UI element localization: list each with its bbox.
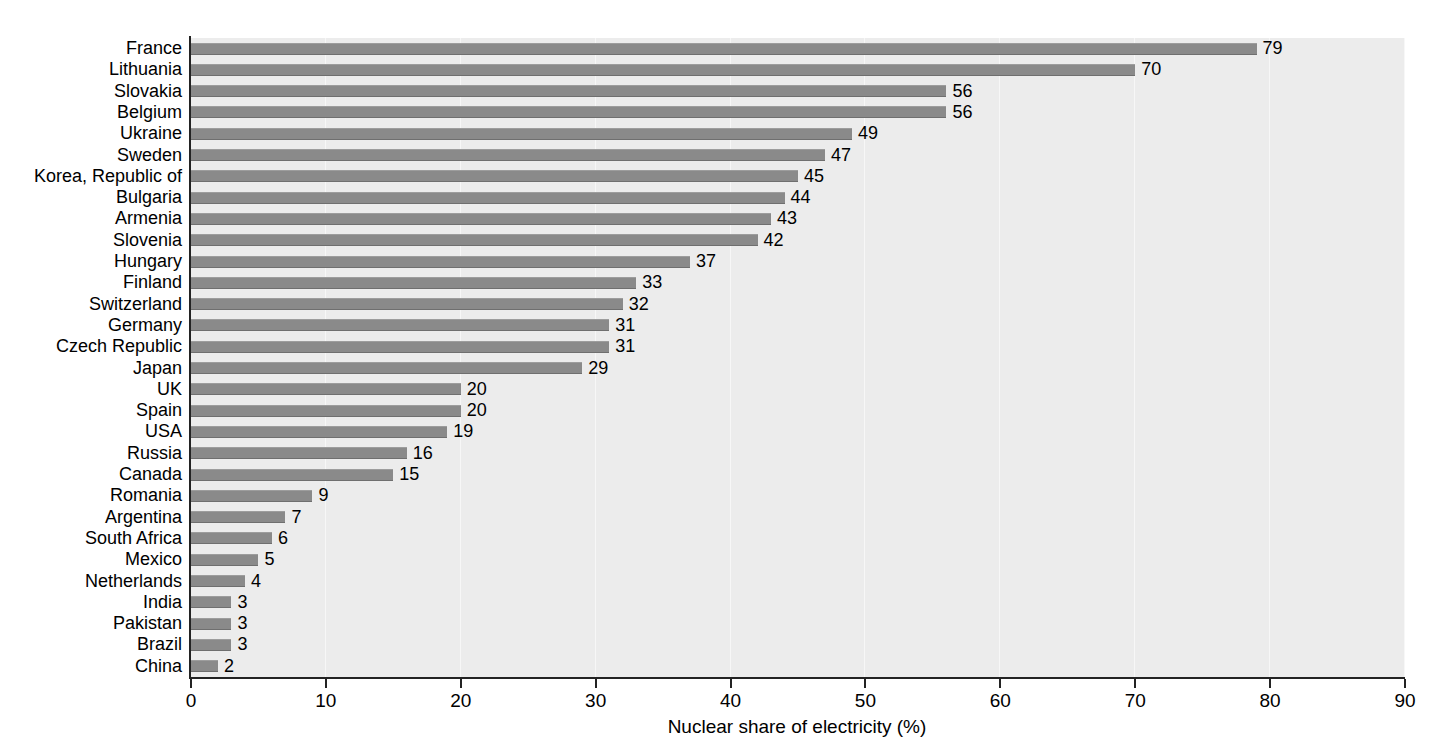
bar-row: Mexico5 (0, 549, 1455, 570)
bar (191, 319, 609, 331)
x-tick-mark (190, 679, 192, 688)
bar-row: Czech Republic31 (0, 336, 1455, 357)
bar-value-label: 3 (231, 613, 247, 634)
category-label: Ukraine (0, 123, 182, 144)
category-label: UK (0, 379, 182, 400)
bar (191, 618, 231, 630)
category-label: Netherlands (0, 571, 182, 592)
bar-value-label: 47 (825, 145, 851, 166)
category-label: USA (0, 421, 182, 442)
bar-row: Armenia43 (0, 208, 1455, 229)
x-tick-mark (864, 679, 866, 688)
x-tick-mark (1134, 679, 1136, 688)
bar-value-label: 2 (218, 656, 234, 677)
x-tick-label: 30 (556, 690, 636, 712)
bar-value-label: 3 (231, 592, 247, 613)
category-label: India (0, 592, 182, 613)
bar-row: Hungary37 (0, 251, 1455, 272)
bar-row: China2 (0, 656, 1455, 677)
bar (191, 64, 1135, 76)
bar-value-label: 15 (393, 464, 419, 485)
category-label: Germany (0, 315, 182, 336)
bar (191, 554, 258, 566)
bar-value-label: 31 (609, 336, 635, 357)
category-label: Japan (0, 358, 182, 379)
bar (191, 639, 231, 651)
bar-value-label: 31 (609, 315, 635, 336)
bar-row: France79 (0, 38, 1455, 59)
bar-row: Brazil3 (0, 634, 1455, 655)
bar (191, 362, 582, 374)
x-tick-mark (1404, 679, 1406, 688)
bar (191, 43, 1257, 55)
bar-row: Pakistan3 (0, 613, 1455, 634)
category-label: Romania (0, 485, 182, 506)
x-tick-label: 50 (825, 690, 905, 712)
bar-value-label: 6 (272, 528, 288, 549)
bar-row: USA19 (0, 421, 1455, 442)
bar-row: Slovakia56 (0, 81, 1455, 102)
bar (191, 532, 272, 544)
x-tick-label: 60 (960, 690, 1040, 712)
bar-value-label: 42 (758, 230, 784, 251)
bar-row: Canada15 (0, 464, 1455, 485)
x-tick-mark (595, 679, 597, 688)
category-label: Finland (0, 272, 182, 293)
bar (191, 490, 312, 502)
bar (191, 447, 407, 459)
bar-row: Russia16 (0, 443, 1455, 464)
bar (191, 511, 285, 523)
bar-row: UK20 (0, 379, 1455, 400)
bar-row: Switzerland32 (0, 294, 1455, 315)
bar-row: Belgium56 (0, 102, 1455, 123)
bar-row: Korea, Republic of45 (0, 166, 1455, 187)
bar-row: Japan29 (0, 358, 1455, 379)
category-label: Brazil (0, 634, 182, 655)
bar (191, 405, 461, 417)
bar-value-label: 7 (285, 507, 301, 528)
bar (191, 213, 771, 225)
category-label: Canada (0, 464, 182, 485)
bar (191, 383, 461, 395)
x-tick-label: 0 (151, 690, 231, 712)
x-tick-mark (999, 679, 1001, 688)
bar-value-label: 70 (1135, 59, 1161, 80)
bar (191, 596, 231, 608)
bar (191, 85, 946, 97)
bar-value-label: 79 (1257, 38, 1283, 59)
bar-value-label: 9 (312, 485, 328, 506)
bar (191, 128, 852, 140)
bar-value-label: 37 (690, 251, 716, 272)
category-label: Mexico (0, 549, 182, 570)
x-tick-mark (730, 679, 732, 688)
bar (191, 192, 785, 204)
bar-value-label: 49 (852, 123, 878, 144)
x-tick-label: 70 (1095, 690, 1175, 712)
bar-row: Sweden47 (0, 145, 1455, 166)
bar-row: Ukraine49 (0, 123, 1455, 144)
x-tick-label: 10 (286, 690, 366, 712)
bar (191, 341, 609, 353)
bar (191, 106, 946, 118)
category-label: Pakistan (0, 613, 182, 634)
bar (191, 149, 825, 161)
x-tick-label: 20 (421, 690, 501, 712)
nuclear-share-bar-chart: France79Lithuania70Slovakia56Belgium56Uk… (0, 0, 1455, 751)
bar-value-label: 20 (461, 400, 487, 421)
bar-row: Germany31 (0, 315, 1455, 336)
bar-value-label: 33 (636, 272, 662, 293)
category-label: Armenia (0, 208, 182, 229)
bar-row: Argentina7 (0, 507, 1455, 528)
bar-row: South Africa6 (0, 528, 1455, 549)
bar-row: Netherlands4 (0, 571, 1455, 592)
bar-row: Slovenia42 (0, 230, 1455, 251)
x-tick-mark (1269, 679, 1271, 688)
x-tick-mark (325, 679, 327, 688)
bar-value-label: 43 (771, 208, 797, 229)
bar (191, 277, 636, 289)
bar-value-label: 56 (946, 102, 972, 123)
category-label: South Africa (0, 528, 182, 549)
bar-value-label: 44 (785, 187, 811, 208)
category-label: Bulgaria (0, 187, 182, 208)
category-label: Czech Republic (0, 336, 182, 357)
